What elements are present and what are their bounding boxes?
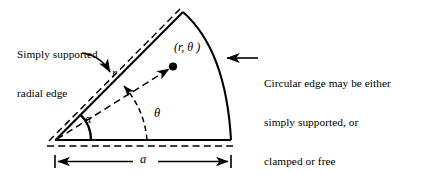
circular-edge-condition-label: Circular edge may be either simply suppo…	[264, 51, 391, 174]
right-label-line-2: simply supported, or	[264, 116, 391, 129]
left-label-line-2: radial edge	[17, 87, 98, 100]
radius-symbol-label: r	[112, 66, 117, 81]
theta-symbol-label: θ	[154, 106, 160, 121]
alpha-symbol-label: α	[85, 112, 92, 127]
point-marker	[169, 62, 177, 70]
simply-supported-radial-edge-label: Simply supported radial edge	[17, 22, 98, 126]
right-label-line-3: clamped or free	[264, 155, 391, 168]
sector-circular-edge	[183, 12, 231, 140]
point-coordinate-label: (r, θ )	[174, 40, 200, 55]
figure-container: Simply supported radial edge Circular ed…	[0, 0, 427, 174]
dimension-symbol-label: a	[140, 152, 146, 167]
left-label-line-1: Simply supported	[17, 48, 98, 61]
right-label-line-1: Circular edge may be either	[264, 77, 391, 90]
